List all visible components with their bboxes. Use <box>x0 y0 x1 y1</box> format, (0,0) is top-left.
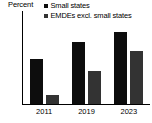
bar-group <box>108 11 150 104</box>
bar <box>130 51 143 104</box>
bar <box>72 42 85 104</box>
square-marker-icon <box>44 4 48 8</box>
legend-item-small-states: Small states <box>44 1 132 10</box>
plot-area <box>22 11 150 105</box>
bar <box>46 95 59 104</box>
bar <box>114 32 127 104</box>
bar-group <box>23 11 65 104</box>
bar-group <box>65 11 107 104</box>
y-axis-unit-label: Percent <box>8 1 33 9</box>
x-axis-tick-labels: 201120192023 <box>23 107 150 116</box>
bar <box>30 59 43 104</box>
x-tick-label: 2019 <box>65 107 107 116</box>
x-tick-label: 2023 <box>108 107 150 116</box>
x-axis-line <box>22 104 150 105</box>
bar-groups <box>23 11 150 104</box>
x-tick-label: 2011 <box>23 107 65 116</box>
bar-chart: Percent Small states EMDEs excl. small s… <box>0 0 152 123</box>
bar <box>88 71 101 104</box>
legend-label: Small states <box>51 2 90 10</box>
